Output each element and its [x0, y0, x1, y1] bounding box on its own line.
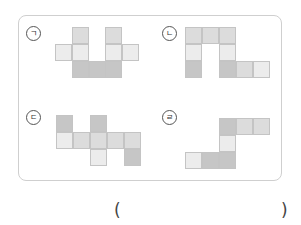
- answer-open-paren: (: [114, 200, 121, 220]
- net-square: [219, 118, 236, 135]
- net-square: [202, 27, 219, 44]
- net-square: [253, 118, 270, 135]
- net-square: [105, 61, 122, 78]
- net-square: [219, 152, 236, 169]
- net-square: [185, 44, 202, 61]
- net-square: [90, 132, 107, 149]
- net-square: [56, 132, 73, 149]
- net-square: [72, 44, 89, 61]
- net-square: [253, 61, 270, 78]
- net-square: [105, 27, 122, 44]
- net-square: [72, 27, 89, 44]
- net-square: [55, 44, 72, 61]
- net-square: [72, 61, 89, 78]
- label-nieun: ㄴ: [162, 26, 177, 41]
- net-square: [90, 149, 107, 166]
- net-square: [107, 132, 124, 149]
- net-square: [122, 44, 139, 61]
- net-square: [73, 132, 90, 149]
- net-square: [185, 152, 202, 169]
- net-square: [56, 115, 73, 132]
- net-square: [219, 135, 236, 152]
- net-square: [124, 149, 141, 166]
- net-square: [89, 61, 106, 78]
- label-rieul: ㄹ: [162, 110, 177, 125]
- net-square: [219, 44, 236, 61]
- net-square: [124, 132, 141, 149]
- net-square: [185, 61, 202, 78]
- net-square: [105, 44, 122, 61]
- answer-blank[interactable]: [125, 200, 275, 222]
- answer-close-paren: ): [281, 200, 288, 220]
- figures-box: [18, 15, 282, 181]
- net-square: [236, 61, 253, 78]
- net-square: [219, 61, 236, 78]
- label-digeut: ㄷ: [26, 110, 41, 125]
- net-square: [202, 152, 219, 169]
- net-square: [185, 27, 202, 44]
- net-square: [90, 115, 107, 132]
- net-square: [219, 27, 236, 44]
- net-square: [236, 118, 253, 135]
- label-giyeok: ㄱ: [26, 26, 41, 41]
